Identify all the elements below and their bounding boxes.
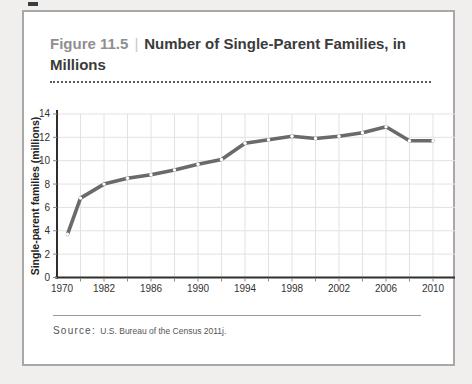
gridlines [57, 114, 455, 278]
y-axis-title: Single-parent families (millions) [29, 117, 41, 276]
svg-text:8: 8 [44, 179, 50, 190]
source-line: Source: U.S. Bureau of the Census 2011j. [53, 320, 433, 338]
svg-text:1990: 1990 [187, 283, 210, 294]
svg-text:1994: 1994 [234, 283, 257, 294]
svg-text:4: 4 [44, 225, 50, 236]
svg-text:1982: 1982 [93, 283, 116, 294]
svg-text:2006: 2006 [375, 283, 398, 294]
svg-text:1986: 1986 [140, 283, 163, 294]
axis-tick-labels: 1970198219861990199419982002200620100246… [39, 108, 445, 293]
source-label: Source: [53, 325, 96, 336]
data-series [66, 125, 435, 236]
svg-text:2002: 2002 [328, 283, 351, 294]
svg-text:2010: 2010 [422, 283, 445, 294]
svg-text:6: 6 [44, 202, 50, 213]
source-divider [53, 315, 421, 316]
source-citation: U.S. Bureau of the Census 2011j. [100, 326, 226, 336]
tick-marks [53, 114, 433, 282]
svg-text:2: 2 [44, 249, 50, 260]
svg-text:0: 0 [44, 272, 50, 283]
svg-text:1970: 1970 [51, 283, 74, 294]
axes [55, 110, 455, 279]
svg-text:1998: 1998 [281, 283, 304, 294]
